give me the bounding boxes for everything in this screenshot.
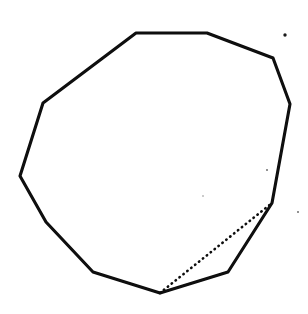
speck-icon [297,211,299,213]
polygon-drawing [0,0,308,314]
figure-canvas [0,0,308,314]
speck-icon [283,33,286,36]
speck-icon [202,195,204,197]
speck-icon [266,169,268,171]
